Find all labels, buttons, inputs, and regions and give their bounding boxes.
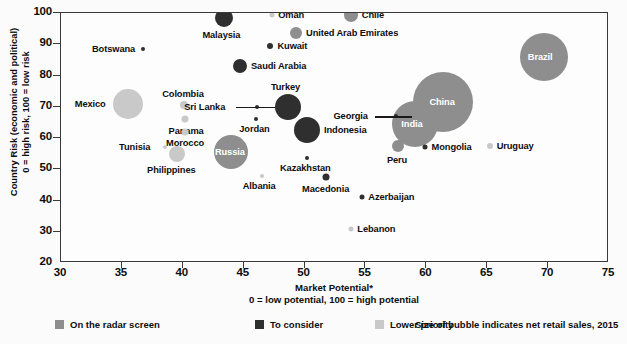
- bubble-peru[interactable]: [392, 140, 404, 152]
- label-kuwait: Kuwait: [277, 41, 307, 51]
- y-tick-label-80: 80: [0, 68, 52, 80]
- label-brazil: Brazil: [528, 52, 553, 62]
- bubble-chart-figure: Country Risk (economic and political) 0 …: [0, 0, 627, 344]
- label-kazakhstan: Kazakhstan: [280, 163, 331, 173]
- y-tick-label-40: 40: [0, 193, 52, 205]
- leader-line-georgia: [375, 116, 412, 118]
- label-india: India: [401, 119, 422, 129]
- label-macedonia: Macedonia: [302, 184, 349, 194]
- y-tick-mark-60: [53, 137, 60, 138]
- bubble-tunisia[interactable]: [163, 145, 167, 149]
- x-tick-mark-45: [243, 262, 244, 268]
- bubble-uruguay[interactable]: [487, 143, 493, 149]
- x-tick-mark-35: [121, 262, 122, 268]
- top-artifact: [148, 0, 162, 7]
- x-tick-mark-50: [304, 262, 305, 268]
- y-tick-label-50: 50: [0, 161, 52, 173]
- legend-label-consider: To consider: [270, 319, 323, 330]
- label-sri-lanka: Sri Lanka: [184, 102, 225, 112]
- legend-swatch-consider-icon: [255, 320, 264, 329]
- bubble-macedonia[interactable]: [323, 174, 330, 181]
- leader-line-sri-lanka: [236, 107, 275, 109]
- x-tick-label-75: 75: [588, 266, 627, 278]
- label-tunisia: Tunisia: [119, 142, 150, 152]
- label-malaysia: Malaysia: [202, 30, 240, 40]
- y-tick-mark-30: [53, 231, 60, 232]
- label-albania: Albania: [243, 181, 276, 191]
- bubble-azerbaijan[interactable]: [359, 195, 364, 200]
- x-tick-mark-65: [486, 262, 487, 268]
- label-mongolia: Mongolia: [432, 142, 472, 152]
- bubble-kuwait[interactable]: [267, 43, 273, 49]
- y-tick-label-90: 90: [0, 36, 52, 48]
- label-colombia: Colombia: [162, 89, 204, 99]
- bubble-malaysia[interactable]: [215, 12, 233, 27]
- bubble-albania[interactable]: [260, 174, 264, 178]
- x-tick-mark-60: [425, 262, 426, 268]
- x-tick-mark-70: [547, 262, 548, 268]
- label-lebanon: Lebanon: [357, 224, 395, 234]
- chart-legend: On the radar screenTo considerLower prio…: [0, 316, 627, 336]
- bubble-kazakhstan[interactable]: [305, 156, 309, 160]
- x-axis-title-line2: 0 = low potential, 100 = high potential: [60, 294, 608, 306]
- x-axis-title: Market Potential* 0 = low potential, 100…: [60, 282, 608, 306]
- label-uruguay: Uruguay: [497, 141, 534, 151]
- x-tick-label-30: 30: [40, 266, 80, 278]
- label-indonesia: Indonesia: [324, 125, 367, 135]
- label-china: China: [429, 97, 454, 107]
- label-azerbaijan: Azerbaijan: [368, 192, 414, 202]
- y-tick-label-70: 70: [0, 99, 52, 111]
- label-chile: Chile: [362, 12, 384, 20]
- bubble-mongolia[interactable]: [423, 145, 428, 150]
- y-tick-mark-50: [53, 168, 60, 169]
- x-tick-mark-40: [182, 262, 183, 268]
- y-tick-mark-80: [53, 75, 60, 76]
- legend-swatch-lower-icon: [375, 320, 384, 329]
- x-axis-title-line1: Market Potential*: [60, 282, 608, 294]
- bubble-turkey[interactable]: [275, 94, 301, 120]
- label-peru: Peru: [387, 155, 407, 165]
- legend-size-note: Size of bubble indicates net retail sale…: [415, 316, 618, 332]
- y-tick-label-100: 100: [0, 5, 52, 17]
- label-mexico: Mexico: [75, 99, 106, 109]
- bubble-chile[interactable]: [344, 12, 358, 22]
- bubble-oman[interactable]: [269, 12, 274, 17]
- legend-swatch-radar-icon: [55, 320, 64, 329]
- y-tick-mark-40: [53, 200, 60, 201]
- label-saudi-arabia: Saudi Arabia: [251, 61, 306, 71]
- legend-item-radar[interactable]: On the radar screen: [55, 316, 160, 332]
- plot-area: MalaysiaOmanChileUnited Arab EmiratesKuw…: [60, 12, 608, 262]
- y-tick-mark-90: [53, 43, 60, 44]
- y-tick-mark-70: [53, 106, 60, 107]
- label-turkey: Turkey: [271, 82, 300, 92]
- bubble-mexico[interactable]: [113, 89, 143, 119]
- x-tick-mark-55: [364, 262, 365, 268]
- bubble-saudi-arabia[interactable]: [233, 59, 247, 73]
- bubble-morocco[interactable]: [182, 128, 189, 135]
- label-georgia: Georgia: [333, 111, 367, 121]
- y-tick-mark-100: [53, 12, 60, 13]
- y-tick-label-30: 30: [0, 224, 52, 236]
- bubble-panama[interactable]: [182, 116, 189, 123]
- bubble-jordan[interactable]: [254, 117, 258, 121]
- label-united-arab-emirates: United Arab Emirates: [306, 28, 398, 38]
- y-tick-label-60: 60: [0, 130, 52, 142]
- label-philippines: Philippines: [147, 165, 196, 175]
- label-jordan: Jordan: [239, 124, 269, 134]
- bubble-lebanon[interactable]: [348, 226, 353, 231]
- bubble-indonesia[interactable]: [294, 117, 320, 143]
- label-botswana: Botswana: [92, 44, 135, 54]
- label-russia: Russia: [215, 147, 245, 157]
- label-oman: Oman: [278, 12, 304, 20]
- bubble-united-arab-emirates[interactable]: [290, 27, 302, 39]
- legend-label-radar: On the radar screen: [70, 319, 160, 330]
- legend-item-consider[interactable]: To consider: [255, 316, 323, 332]
- bubble-philippines[interactable]: [169, 146, 185, 162]
- bubble-botswana[interactable]: [141, 47, 145, 51]
